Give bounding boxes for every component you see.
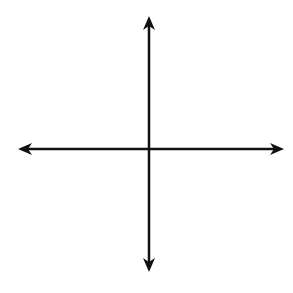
y-axis: [143, 16, 155, 272]
coordinate-plane: [0, 0, 293, 293]
x-axis: [18, 143, 284, 155]
